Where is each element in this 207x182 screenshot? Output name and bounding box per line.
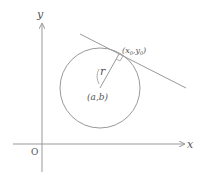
y-axis-label: y xyxy=(36,8,44,21)
radius-arrow xyxy=(97,69,99,84)
diagram-canvas: x y O r (a,b) (x0,y0) xyxy=(0,0,207,182)
svg-text:(x0,y0): (x0,y0) xyxy=(122,46,146,56)
radius-label: r xyxy=(100,65,106,78)
center-label: (a,b) xyxy=(87,92,108,102)
tangent-line xyxy=(80,34,186,88)
x-axis-label: x xyxy=(187,138,194,151)
origin-label: O xyxy=(31,147,38,157)
tangent-point-label: (x0,y0) xyxy=(122,46,146,56)
